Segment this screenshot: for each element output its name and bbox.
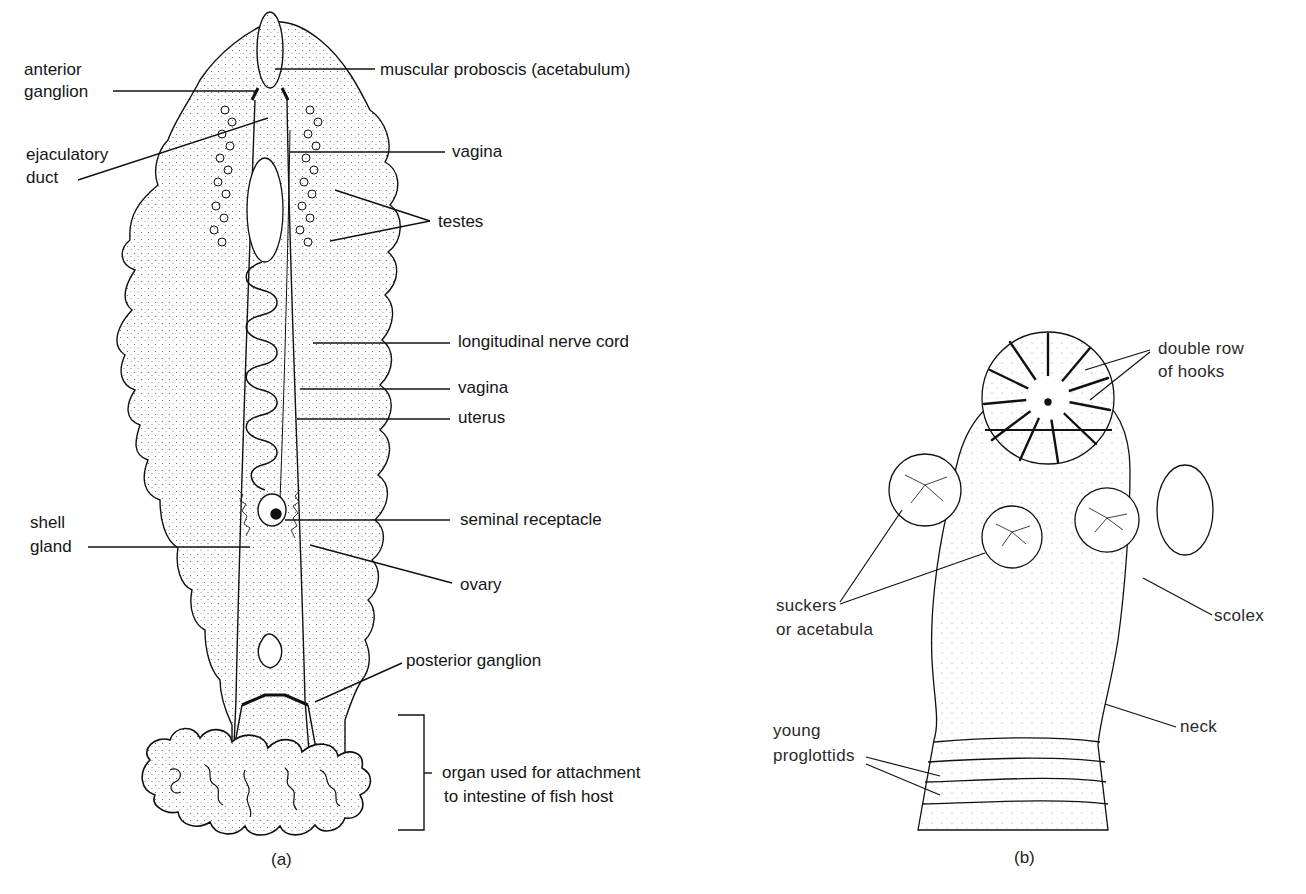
label-suckers-1: suckers bbox=[776, 596, 837, 616]
label-vagina-upper: vagina bbox=[452, 142, 502, 162]
label-muscular-proboscis: muscular proboscis (acetabulum) bbox=[380, 60, 630, 80]
label-neck: neck bbox=[1180, 717, 1217, 737]
label-ejaculatory-duct-2: duct bbox=[26, 168, 58, 188]
label-young-proglottids-1: young bbox=[773, 721, 821, 741]
label-longitudinal-nerve-cord: longitudinal nerve cord bbox=[458, 332, 629, 352]
label-suckers-2: or acetabula bbox=[776, 620, 873, 640]
label-scolex: scolex bbox=[1214, 606, 1264, 626]
label-vagina-lower: vagina bbox=[458, 378, 508, 398]
label-double-row-of-hooks-1: double row bbox=[1158, 339, 1244, 359]
caption-a: (a) bbox=[271, 850, 292, 870]
label-attachment-organ-2: to intestine of fish host bbox=[444, 787, 613, 807]
diagram-artwork bbox=[0, 0, 1306, 894]
label-seminal-receptacle: seminal receptacle bbox=[460, 510, 602, 530]
caption-b: (b) bbox=[1014, 848, 1035, 868]
label-ovary: ovary bbox=[460, 575, 502, 595]
label-testes: testes bbox=[438, 212, 483, 232]
figure-a-worm bbox=[117, 12, 400, 835]
label-shell-gland-1: shell bbox=[30, 513, 65, 533]
label-anterior-ganglion-1: anterior bbox=[24, 60, 82, 80]
label-anterior-ganglion-2: ganglion bbox=[24, 82, 88, 102]
figure-b-scolex bbox=[889, 332, 1213, 830]
label-uterus: uterus bbox=[458, 408, 505, 428]
label-young-proglottids-2: proglottids bbox=[773, 746, 855, 766]
label-posterior-ganglion: posterior ganglion bbox=[406, 651, 541, 671]
label-double-row-of-hooks-2: of hooks bbox=[1158, 362, 1225, 382]
label-ejaculatory-duct-1: ejaculatory bbox=[26, 145, 108, 165]
label-shell-gland-2: gland bbox=[30, 537, 72, 557]
label-attachment-organ-1: organ used for attachment bbox=[442, 763, 640, 783]
